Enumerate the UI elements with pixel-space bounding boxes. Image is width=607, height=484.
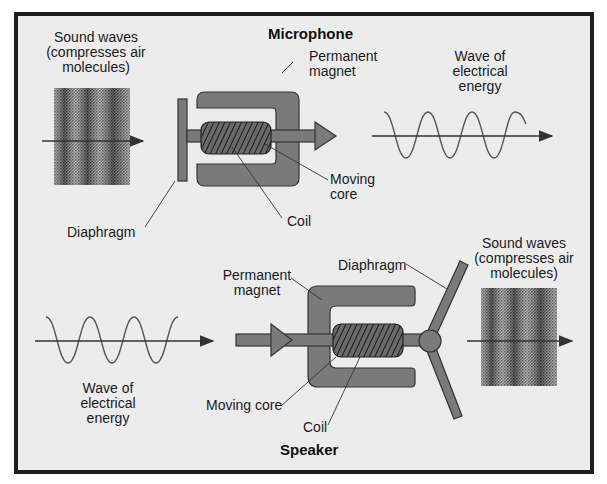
microphone-coil-label: Coil: [287, 214, 311, 229]
diaphragm-plate-icon: [178, 99, 187, 181]
microphone-coil-icon: [201, 122, 271, 154]
speaker-moving-core-label: Moving core: [206, 398, 282, 413]
speaker-coil-icon: [333, 324, 403, 357]
microphone-diaphragm-label: Diaphragm: [67, 225, 135, 240]
speaker-diaphragm-icon: [419, 261, 468, 419]
sound-wave-block-icon: [54, 88, 130, 185]
speaker-permanent-magnet-label: Permanent magnet: [222, 268, 292, 298]
microphone-wave-electrical-label: Wave of electrical energy: [440, 49, 520, 94]
microphone-sound-waves-label: Sound waves (compresses air molecules): [40, 30, 152, 75]
microphone-electrical-wave-icon: [372, 112, 552, 158]
microphone-title: Microphone: [268, 25, 353, 42]
microphone-moving-core-label: Moving core: [330, 172, 375, 202]
speaker-sound-waves-label: Sound waves (compresses air molecules): [468, 236, 580, 281]
speaker-diaphragm-label: Diaphragm: [338, 258, 406, 273]
speaker-sound-wave-block-icon: [481, 288, 557, 386]
speaker-coil-label: Coil: [303, 420, 327, 435]
speaker-wave-electrical-label: Wave of electrical energy: [68, 381, 148, 426]
speaker-electrical-wave-icon: [35, 317, 213, 363]
microphone-arrowhead-icon: [315, 122, 336, 150]
speaker-arrowhead-icon: [271, 324, 292, 356]
speaker-title: Speaker: [280, 441, 338, 458]
microphone-permanent-magnet-label: Permanent magnet: [309, 49, 377, 79]
